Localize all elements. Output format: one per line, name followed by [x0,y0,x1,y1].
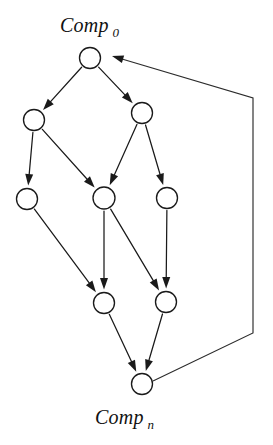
edge-n3-n6-arrowhead [86,281,96,293]
edge-n2-n4-arrowhead [110,173,118,185]
edge-n6-n8 [109,314,134,366]
edge-n2-n5 [146,125,162,180]
label-comp-n: Compn [95,406,154,432]
node-l2-left[interactable] [17,189,38,210]
edge-n3-n6 [34,209,92,288]
label-comp-n-base: Comp [95,406,144,429]
diagram-canvas: Comp0Compn [0,0,273,445]
edge-n7-n8-arrowhead [145,359,153,371]
edge-n1-n3 [29,132,33,180]
node-l3-left[interactable] [94,293,115,314]
edge-n0-n2 [99,67,129,99]
node-l1-right[interactable] [132,103,153,124]
edge-n2-n5-arrowhead [156,173,164,185]
component-dependency-graph: Comp0Compn [0,0,273,445]
label-comp-0: Comp0 [60,14,120,40]
node-l1-left[interactable] [24,110,45,131]
label-comp-0-base: Comp [60,14,109,37]
edge-n1-n4 [42,129,91,183]
feedback-edge-layer [112,55,253,381]
edge-n4-n7 [111,209,157,286]
edge-n7-n8 [147,314,162,366]
node-l2-mid[interactable] [93,187,115,209]
label-comp-0-subscript: 0 [113,25,120,40]
node-l2-right[interactable] [157,188,178,209]
edge-n0-n1 [47,67,82,106]
label-comp-n-subscript: n [148,417,155,432]
edge-n5-n7-arrowhead [162,277,170,289]
node-comp-n[interactable] [132,374,153,395]
edge-n6-n8-arrowhead [128,360,137,372]
edge-n5-n7 [166,210,167,283]
node-comp-0[interactable] [80,48,101,69]
nodes-layer [17,48,178,395]
edge-feedback-n8-n0-arrowhead [112,55,124,63]
node-l3-right[interactable] [156,292,177,313]
edge-n2-n4 [112,124,137,180]
edge-n4-n7-arrowhead [150,278,159,290]
edge-n4-n6-arrowhead [100,278,108,290]
edge-n1-n3-arrowhead [25,174,33,186]
